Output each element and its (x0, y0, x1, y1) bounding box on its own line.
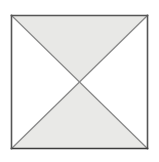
figure-canvas: A square outline on a white background w… (0, 0, 159, 162)
square-diagonals-diagram (0, 0, 159, 162)
